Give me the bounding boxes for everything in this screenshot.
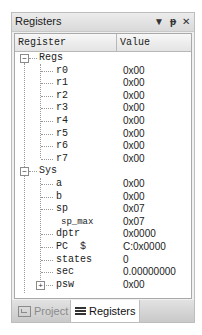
project-icon bbox=[18, 306, 31, 317]
register-row[interactable]: r50x00 bbox=[15, 128, 191, 141]
registers-icon bbox=[75, 307, 86, 315]
register-row[interactable]: sp0x07 bbox=[15, 203, 191, 216]
collapse-icon[interactable]: − bbox=[20, 167, 29, 176]
register-row[interactable]: states0 bbox=[15, 254, 191, 267]
grid-header: Register Value bbox=[15, 34, 191, 52]
tab-project[interactable]: Project bbox=[14, 300, 72, 322]
tree-group-sys[interactable]: − Sys bbox=[15, 165, 191, 178]
group-label: Regs bbox=[39, 52, 63, 65]
register-row[interactable]: dptr0x0000 bbox=[15, 228, 191, 241]
expand-icon[interactable]: + bbox=[36, 281, 45, 290]
register-row[interactable]: b0x00 bbox=[15, 191, 191, 204]
tab-registers[interactable]: Registers bbox=[70, 300, 140, 323]
column-header-value[interactable]: Value bbox=[117, 34, 191, 51]
registers-panel: Registers ▼ ᵽ ✕ Register Value − Regs r0… bbox=[11, 12, 195, 323]
register-row[interactable]: r60x00 bbox=[15, 140, 191, 153]
register-tree: Register Value − Regs r00x00 r10x00 r20x… bbox=[14, 33, 192, 299]
tree-rows: − Regs r00x00 r10x00 r20x00 r30x00 r40x0… bbox=[15, 52, 191, 291]
tree-group-regs[interactable]: − Regs bbox=[15, 52, 191, 65]
group-label: Sys bbox=[39, 165, 57, 178]
dropdown-arrow-icon[interactable]: ▼ bbox=[154, 15, 164, 28]
register-row[interactable]: r30x00 bbox=[15, 102, 191, 115]
register-row[interactable]: r70x00 bbox=[15, 153, 191, 166]
panel-title: Registers bbox=[15, 15, 61, 27]
register-row[interactable]: a0x00 bbox=[15, 178, 191, 191]
register-row[interactable]: sp_max0x07 bbox=[15, 216, 191, 229]
panel-titlebar[interactable]: Registers ▼ ᵽ ✕ bbox=[12, 13, 194, 32]
register-row[interactable]: r00x00 bbox=[15, 65, 191, 78]
panel-tab-strip: Project Registers bbox=[12, 300, 194, 322]
register-row[interactable]: r20x00 bbox=[15, 90, 191, 103]
close-icon[interactable]: ✕ bbox=[182, 15, 190, 28]
register-row[interactable]: sec0.00000000 bbox=[15, 266, 191, 279]
register-row[interactable]: r10x00 bbox=[15, 77, 191, 90]
register-row-psw[interactable]: + psw 0x00 bbox=[15, 279, 191, 292]
pin-icon[interactable]: ᵽ bbox=[170, 15, 176, 28]
collapse-icon[interactable]: − bbox=[20, 54, 29, 63]
register-row[interactable]: r40x00 bbox=[15, 115, 191, 128]
register-row[interactable]: PC $C:0x0000 bbox=[15, 241, 191, 254]
column-header-register[interactable]: Register bbox=[15, 34, 117, 51]
